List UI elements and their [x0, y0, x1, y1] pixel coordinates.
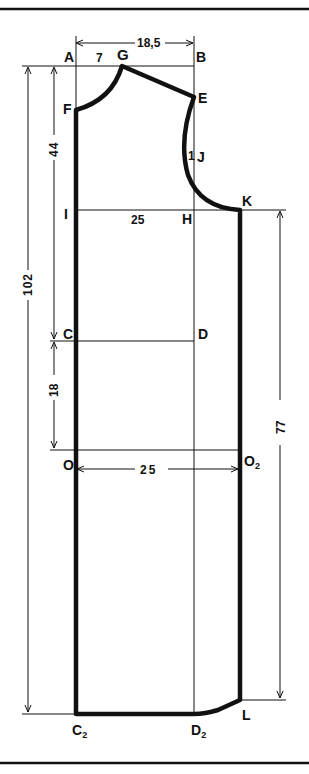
point-o2: O2 — [244, 453, 260, 471]
point-k: K — [242, 193, 252, 209]
pattern-diagram: A G B E F 1 J K I H C D O O2 L C2 D2 18,… — [0, 0, 309, 774]
dim-neck-width: 7 — [96, 51, 103, 65]
dim-upper-length: 44 — [47, 142, 61, 157]
point-b: B — [196, 49, 206, 65]
point-f: F — [63, 101, 72, 117]
dim-top-width: 18,5 — [137, 36, 161, 50]
point-i: I — [64, 206, 68, 222]
construction-lines — [22, 36, 286, 714]
dim-hip-width: 25 — [140, 463, 157, 477]
dim-waist-hip: 18 — [47, 383, 61, 397]
point-j: J — [197, 149, 205, 165]
pattern-outline — [76, 66, 240, 714]
point-d2: D2 — [191, 722, 206, 740]
dim-chest-width: 25 — [131, 213, 145, 227]
point-d: D — [198, 326, 208, 342]
point-g: G — [117, 46, 129, 63]
point-o: O — [63, 457, 74, 473]
point-h: H — [182, 211, 192, 227]
dim-side-length: 77 — [274, 420, 288, 434]
point-c: C — [63, 326, 73, 342]
point-c2: C2 — [72, 722, 87, 740]
point-l: L — [242, 707, 251, 723]
armhole-offset-label: 1 — [188, 149, 195, 163]
dim-total-length: 102 — [21, 273, 35, 296]
point-a: A — [64, 49, 74, 65]
point-e: E — [198, 90, 207, 106]
